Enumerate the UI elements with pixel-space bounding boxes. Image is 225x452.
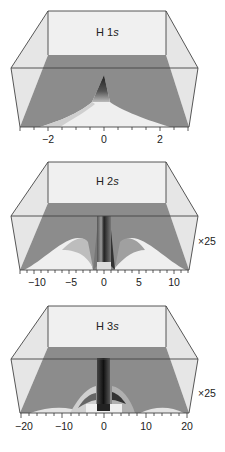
x-tick-label: −5: [65, 276, 77, 288]
panel-title: H 3s: [96, 320, 119, 332]
x-tick-label: −10: [28, 276, 46, 288]
panel-h2s: H 2s ×25 −10 −5 0 5 10: [0, 150, 225, 300]
h1s-3d-plot: [0, 0, 225, 150]
x-tick-label: 20: [181, 420, 193, 432]
x-tick-label: 2: [157, 133, 163, 145]
x-tick-label: 10: [168, 276, 180, 288]
scale-factor-label: ×25: [198, 235, 216, 247]
panel-title: H 1s: [96, 26, 119, 38]
x-tick-label: 10: [140, 420, 152, 432]
x-tick-label: 0: [101, 420, 107, 432]
scale-factor-label: ×25: [198, 387, 216, 399]
x-tick-label: 5: [136, 276, 142, 288]
x-tick-label: −10: [55, 420, 73, 432]
x-tick-label: −2: [42, 133, 54, 145]
x-tick-label: 0: [101, 133, 107, 145]
panel-h3s: H 3s ×25 −20 −10 0 10 20: [0, 300, 225, 452]
panel-h1s: H 1s −2 0 2: [0, 0, 225, 150]
x-axis-ticks: [20, 127, 188, 131]
x-tick-label: 0: [101, 276, 107, 288]
panel-title: H 2s: [96, 175, 119, 187]
x-tick-label: −20: [15, 420, 33, 432]
